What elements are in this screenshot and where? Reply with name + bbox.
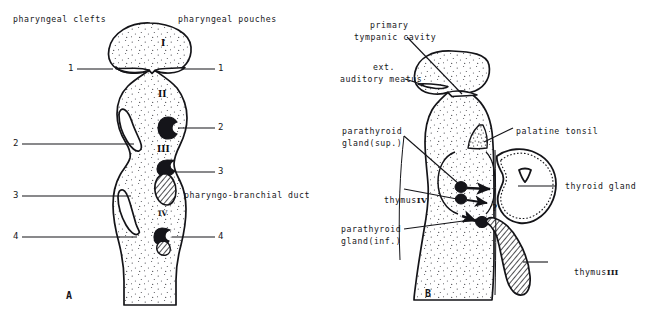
panel-a-artwork — [22, 23, 215, 305]
panel-a-pharyngo-branchial-duct — [155, 174, 176, 205]
panel-b-thymus-iv-nodule — [455, 194, 466, 204]
panel-a-header-pouches: pharyngeal pouches — [178, 14, 277, 25]
panel-a-pouch-number-4: 4 — [218, 231, 223, 242]
panel-a-arch-numeral-iii: III — [157, 144, 170, 155]
panel-a-pouch-1 — [155, 68, 185, 73]
panel-b-thymus-iii-numeral: III — [607, 267, 619, 277]
panel-b-ext-auditory-meatus-line2: auditory meatus — [340, 74, 422, 85]
figure-artwork — [0, 0, 647, 316]
panel-b-thymus-iv-numeral: IV — [417, 195, 427, 205]
panel-b-parathyroid-sup-line2: gland(sup.) — [342, 138, 402, 149]
panel-b-primary-tympanic-cavity-line1: primary — [370, 20, 408, 31]
panel-a-pharynx-outline — [109, 23, 192, 74]
panel-a-pouch-number-3: 3 — [218, 166, 223, 177]
panel-a-header-clefts: pharyngeal clefts — [13, 14, 106, 25]
panel-b-artwork — [399, 37, 556, 300]
panel-b-arrow-parathyroid-sup — [467, 188, 490, 189]
panel-b-parathyroid-inf-line2: gland(inf.) — [341, 236, 401, 247]
panel-b-parathyroid-sup — [455, 182, 467, 193]
panel-b-thymus-iii-text: thymus — [574, 267, 607, 277]
panel-a-arch-numeral-iv: IV — [158, 208, 167, 219]
panel-b-letter: B — [425, 288, 431, 299]
pharyngeal-pouch-figure: pharyngeal clefts pharyngeal pouches 1 2… — [0, 0, 647, 316]
panel-a-cleft-number-1: 1 — [68, 63, 73, 74]
panel-b-head-outline — [414, 51, 489, 97]
panel-b-question-mark: ? — [492, 203, 498, 214]
panel-a-cleft-number-2: 2 — [13, 138, 18, 149]
panel-a-pouch-number-2: 2 — [218, 122, 223, 133]
panel-b-thymus-iv-text: thymus — [384, 195, 417, 205]
panel-a-pharyngo-branchial-duct-label: pharyngo-branchial duct — [184, 190, 310, 201]
panel-a-cleft-1-slit — [116, 68, 150, 72]
panel-a-letter: A — [66, 290, 72, 301]
panel-a-arch-numeral-i: I — [161, 38, 165, 49]
panel-b-primary-tympanic-cavity-line2: tympanic cavity — [354, 32, 436, 43]
panel-a-pouch-4-bud — [157, 241, 171, 255]
panel-b-parathyroid-sup-line1: parathyroid — [342, 126, 402, 137]
panel-a-pouch-number-1: 1 — [218, 63, 223, 74]
panel-a-arch-numeral-ii: II — [158, 89, 166, 100]
panel-b-thymus-iii-label: thymusIII — [552, 256, 618, 289]
panel-b-thymus-iv-label: thymusIV — [362, 184, 427, 217]
panel-a-cleft-number-4: 4 — [13, 231, 18, 242]
panel-b-thyroid-gland-label: thyroid gland — [565, 181, 636, 192]
panel-a-cleft-number-3: 3 — [13, 190, 18, 201]
panel-b-parathyroid-inf-line1: parathyroid — [341, 224, 401, 235]
panel-b-ext-auditory-meatus-line1: ext. — [373, 62, 395, 73]
panel-b-palatine-tonsil-label: palatine tonsil — [516, 126, 598, 137]
